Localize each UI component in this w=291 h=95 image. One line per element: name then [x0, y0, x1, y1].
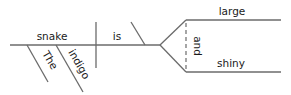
modifier-line-the — [27, 45, 48, 82]
sentence-diagram: snake is large shiny and The indigo — [0, 0, 291, 95]
word-adjective-shiny: shiny — [217, 57, 245, 69]
fork-lower-branch — [160, 45, 186, 72]
word-modifier-the: The — [40, 48, 61, 72]
word-conjunction: and — [192, 36, 204, 56]
word-modifier-indigo: indigo — [66, 47, 93, 81]
word-subject: snake — [37, 30, 68, 42]
predicate-complement-slash — [131, 22, 145, 45]
word-verb: is — [113, 30, 121, 42]
word-adjective-large: large — [219, 5, 246, 17]
fork-upper-branch — [160, 20, 186, 45]
